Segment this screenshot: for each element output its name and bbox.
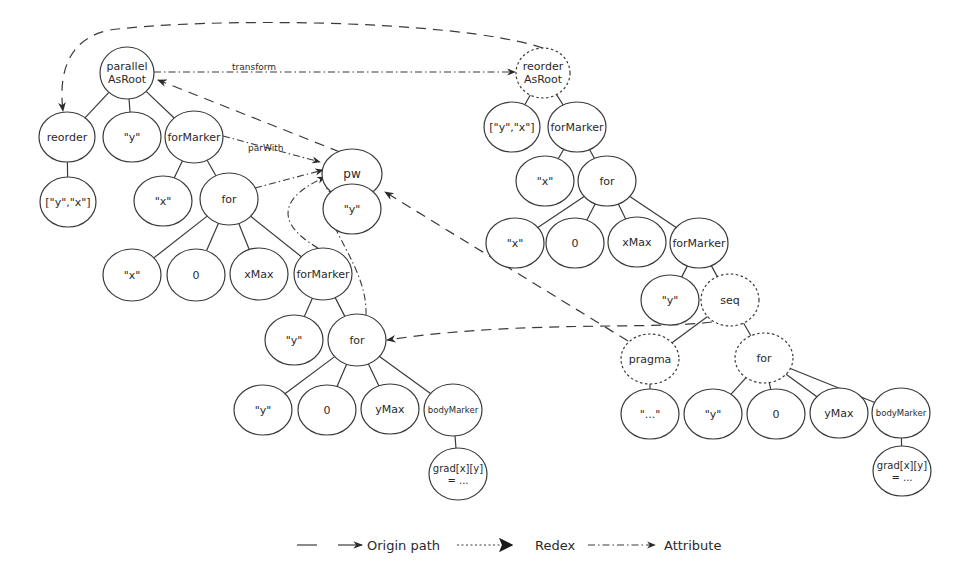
attribute-forMarker-to-pw: [288, 177, 325, 248]
node-label: 0: [193, 269, 200, 282]
node-label: AsRoot: [524, 73, 563, 86]
node-label: "y": [662, 294, 679, 307]
ast-node-l-bodymarker: bodyMarker: [424, 384, 482, 436]
ast-transformation-diagram: transform parWith parallelAsRootreorder"…: [0, 0, 968, 583]
ast-node-r-x2: "x": [486, 218, 544, 268]
ast-node-l-x2: "x": [103, 249, 161, 301]
ast-node-l-for1: for: [200, 173, 258, 225]
ast-node-p-y: "y": [323, 184, 381, 234]
ast-node-r-yx: ["y","x"]: [484, 102, 540, 152]
tree-edge: [207, 160, 216, 176]
node-label: for: [756, 352, 772, 365]
ast-node-l-x1: "x": [134, 176, 192, 226]
tree-edge: [743, 323, 750, 336]
tree-edge: [682, 266, 688, 277]
tree-nodes: parallelAsRootreorder"y"forMarker["y","x…: [39, 47, 931, 500]
ast-node-r-reorder: reorderAsRoot: [516, 48, 570, 98]
node-label: ["y","x"]: [489, 121, 534, 134]
ast-node-l-y3: "y": [234, 385, 292, 435]
tree-edge: [557, 95, 564, 105]
tree-edge: [455, 436, 456, 448]
tree-edge: [335, 298, 345, 317]
tree-edge: [304, 298, 312, 316]
tree-edge: [590, 150, 595, 159]
attribute-for-to-pw: [255, 170, 323, 188]
node-label: reorder: [47, 131, 88, 144]
ast-node-r-x1: "x": [516, 156, 574, 206]
ast-node-l-ymax: yMax: [361, 384, 419, 434]
ast-node-l-for2: for: [328, 314, 386, 366]
node-label: pw: [343, 167, 361, 181]
node-label: "...": [640, 408, 661, 421]
ast-node-r-y2: "y": [641, 275, 699, 325]
node-label: AsRoot: [108, 73, 147, 86]
node-label: 0: [773, 408, 780, 421]
node-label: 0: [572, 237, 579, 250]
node-label: for: [221, 193, 237, 206]
ast-node-r-bodymarker: bodyMarker: [872, 388, 930, 438]
ast-node-r-zero1: 0: [546, 218, 604, 268]
node-label: grad[x][y]: [433, 463, 483, 474]
node-label: yMax: [824, 407, 854, 420]
legend: Origin path Redex Attribute: [297, 538, 721, 553]
ast-node-l-zero1: 0: [167, 249, 225, 301]
ast-node-l-reorder: reorder: [39, 112, 95, 162]
ast-node-l-parallel: parallelAsRoot: [100, 47, 154, 99]
parwith-label: parWith: [248, 143, 283, 153]
ast-node-l-formarker2: forMarker: [294, 248, 352, 300]
ast-node-r-for2: for: [735, 333, 793, 383]
tree-edge: [711, 266, 717, 277]
ast-node-l-formarker1: forMarker: [165, 111, 223, 163]
tree-edge: [337, 364, 347, 386]
tree-edge: [769, 383, 770, 390]
node-label: xMax: [622, 236, 652, 249]
ast-node-l-xmax: xMax: [230, 248, 288, 300]
node-label: xMax: [244, 268, 274, 281]
node-label: "y": [344, 203, 361, 216]
ast-node-r-dots: "...": [621, 389, 679, 439]
tree-edge: [618, 204, 625, 219]
node-label: "x": [537, 175, 554, 188]
node-label: forMarker: [296, 268, 350, 281]
ast-node-l-grad: grad[x][y]= ...: [429, 448, 487, 500]
ast-node-r-zero2: 0: [747, 389, 805, 439]
ast-node-r-formarker1: forMarker: [548, 102, 606, 152]
node-label: yMax: [375, 403, 405, 416]
ast-node-l-yx: ["y","x"]: [40, 177, 96, 227]
ast-node-r-y3: "y": [684, 389, 742, 439]
ast-node-r-seq: seq: [701, 274, 759, 326]
tree-edge: [368, 364, 379, 386]
tree-edge: [558, 149, 564, 158]
node-label: "x": [507, 237, 524, 250]
ast-node-r-ymax: yMax: [810, 388, 868, 438]
diagram-stage: transform parWith parallelAsRootreorder"…: [0, 0, 968, 583]
node-label: reorder: [523, 60, 564, 73]
tree-edge: [587, 204, 595, 220]
legend-attribute-label: Attribute: [664, 538, 721, 553]
ast-node-r-pragma: pragma: [621, 334, 679, 384]
node-label: forMarker: [167, 131, 221, 144]
tree-edge: [731, 378, 746, 395]
node-label: bodyMarker: [876, 408, 927, 418]
node-label: "y": [705, 408, 722, 421]
node-label: forMarker: [672, 237, 726, 250]
tree-edge: [525, 95, 531, 105]
legend-redex-label: Redex: [535, 538, 575, 553]
node-label: 0: [324, 404, 331, 417]
node-label: "y": [286, 334, 303, 347]
node-label: = ...: [447, 475, 468, 486]
transform-label: transform: [232, 62, 276, 72]
node-label: "x": [155, 195, 172, 208]
node-label: seq: [720, 294, 739, 307]
node-label: bodyMarker: [428, 405, 479, 415]
legend-origin-label: Origin path: [367, 538, 440, 553]
node-label: parallel: [107, 60, 148, 73]
ast-node-r-formarker2: forMarker: [670, 218, 728, 268]
ast-node-l-y1: "y": [103, 112, 161, 162]
node-label: "y": [124, 131, 141, 144]
tree-edge: [129, 99, 130, 112]
node-label: "y": [255, 404, 272, 417]
node-label: for: [349, 334, 365, 347]
node-label: ["y","x"]: [45, 196, 90, 209]
ast-node-l-zero2: 0: [298, 385, 356, 435]
